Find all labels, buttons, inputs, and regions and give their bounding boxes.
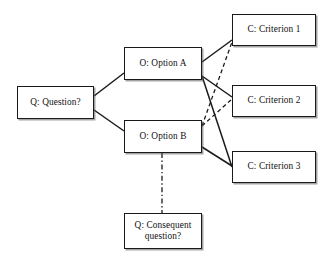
node-criterion-1-label: C: Criterion 1 [245, 24, 302, 35]
node-criterion-3[interactable]: C: Criterion 3 [232, 151, 316, 183]
edge-option_b-to-criterion_1 [202, 42, 232, 126]
edge-question-to-option_a [94, 73, 124, 96]
node-option-a-label: O: Option A [137, 58, 188, 69]
edge-option_a-to-criterion_3 [202, 76, 232, 167]
edge-option_a-to-criterion_2 [202, 76, 232, 97]
node-criterion-2[interactable]: C: Criterion 2 [232, 85, 316, 117]
node-criterion-1[interactable]: C: Criterion 1 [232, 14, 316, 46]
node-option-b-label: O: Option B [137, 131, 188, 142]
edge-option_a-to-criterion_1 [202, 40, 232, 62]
node-criterion-2-label: C: Criterion 2 [245, 95, 302, 106]
node-question[interactable]: Q: Question? [17, 86, 94, 119]
node-consequent-question[interactable]: Q: Consequent question? [124, 213, 202, 249]
node-consequent-question-label: Q: Consequent question? [133, 220, 194, 243]
diagram-canvas: Q: Question? O: Option A O: Option B C: … [0, 0, 325, 260]
node-question-label: Q: Question? [28, 97, 83, 108]
node-option-a[interactable]: O: Option A [124, 47, 202, 80]
edge-option_b-to-criterion_3 [202, 147, 232, 166]
edge-question-to-option_b [94, 110, 124, 131]
node-criterion-3-label: C: Criterion 3 [245, 161, 302, 172]
node-option-b[interactable]: O: Option B [124, 120, 202, 153]
